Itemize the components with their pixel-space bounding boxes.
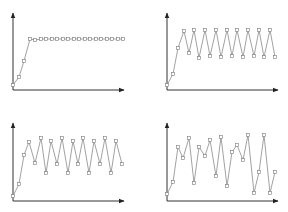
data-point-marker [253,55,256,58]
data-point-marker [258,29,261,32]
data-point-marker [12,195,15,198]
data-point-marker [45,38,48,41]
data-point-marker [253,192,256,195]
chart-bottom-left [12,123,124,201]
data-point-marker [106,38,109,41]
data-point-marker [226,29,229,32]
data-point-marker [247,134,250,137]
series-line [167,135,275,194]
data-point-marker [263,134,266,137]
data-point-marker [111,38,114,41]
data-point-marker [73,38,76,41]
data-point-marker [34,39,37,42]
data-point-marker [77,163,80,166]
data-point-marker [99,163,102,166]
data-point-marker [115,140,118,143]
data-point-marker [121,163,124,166]
data-point-marker [100,38,103,41]
data-point-marker [50,140,53,143]
data-point-marker [89,38,92,41]
series-line [13,138,122,196]
data-point-marker [51,38,54,41]
data-point-marker [236,144,239,147]
data-point-marker [242,159,245,162]
data-point-marker [72,140,75,143]
data-point-marker [193,29,196,32]
data-point-marker [247,29,250,32]
data-point-marker [177,146,180,149]
data-point-marker [177,47,180,50]
data-point-marker [215,29,218,32]
data-point-marker [198,146,201,149]
data-point-marker [209,55,212,58]
data-point-marker [209,139,212,142]
data-point-marker [62,38,65,41]
data-point-marker [45,172,48,175]
data-point-marker [78,38,81,41]
data-point-marker [117,38,120,41]
data-point-marker [23,60,26,63]
data-point-marker [269,29,272,32]
data-point-marker [82,137,85,140]
data-point-marker [56,38,59,41]
data-point-marker [84,38,87,41]
data-point-marker [198,57,201,60]
data-point-marker [215,175,218,178]
data-point-marker [18,183,21,186]
data-point-marker [166,84,169,87]
data-point-marker [110,172,113,175]
data-point-marker [56,163,59,166]
data-point-marker [12,84,15,87]
data-point-marker [67,38,70,41]
data-point-marker [274,171,277,174]
data-point-marker [231,151,234,154]
chart-bottom-right [166,123,278,201]
data-point-marker [188,52,191,55]
data-point-marker [182,157,185,160]
data-point-marker [88,172,91,175]
data-point-marker [61,137,64,140]
data-point-marker [40,137,43,140]
chart-top-right [166,13,278,90]
data-point-marker [220,56,223,59]
data-point-marker [183,30,186,33]
data-point-marker [188,137,191,140]
data-point-marker [220,136,223,139]
data-point-marker [172,73,175,76]
data-point-marker [40,38,43,41]
data-point-marker [236,29,239,32]
data-point-marker [204,155,207,158]
four-line-charts-figure [0,0,288,212]
data-point-marker [104,137,107,140]
data-point-marker [95,38,98,41]
data-point-marker [67,172,70,175]
data-point-marker [193,182,196,185]
data-point-marker [269,192,272,195]
data-point-marker [166,193,169,196]
data-point-marker [29,38,32,41]
chart-top-left [12,13,125,90]
data-point-marker [93,140,96,143]
data-point-marker [18,76,21,79]
data-point-marker [28,141,31,144]
data-point-marker [274,56,277,59]
data-point-marker [258,171,261,174]
chart-grid [0,0,288,212]
data-point-marker [263,56,266,59]
data-point-marker [242,56,245,59]
data-point-marker [172,181,175,184]
data-point-marker [122,38,125,41]
data-point-marker [204,29,207,32]
data-point-marker [34,162,37,165]
data-point-marker [231,55,234,58]
data-point-marker [226,185,229,188]
data-point-marker [23,154,26,157]
series-line [13,39,123,85]
